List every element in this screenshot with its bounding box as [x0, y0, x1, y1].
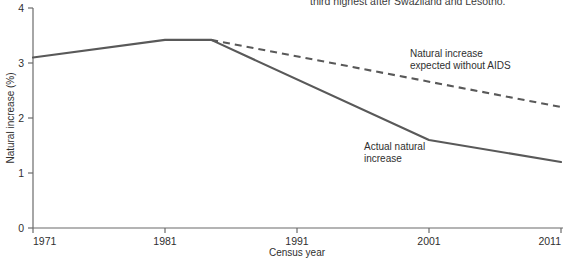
y-tick-label-4: 4	[18, 2, 24, 14]
annotation-expected-line2: expected without AIDS	[410, 60, 511, 71]
line-chart: 4 3 2 1 0 Natural increase (%) 1971 1981…	[0, 0, 573, 258]
annotation-actual-natural-increase: Actual natural increase	[364, 141, 425, 164]
x-axis-title: Census year	[269, 247, 326, 258]
y-tick-label-2: 2	[18, 112, 24, 124]
x-tick-label-2001: 2001	[417, 235, 441, 247]
y-axis-title: Natural increase (%)	[5, 72, 16, 163]
x-tick-label-1971: 1971	[33, 235, 57, 247]
x-tick-label-1981: 1981	[153, 235, 177, 247]
x-axis: 1971 1981 1991 2001 2011 Census year	[33, 228, 563, 258]
y-tick-label-3: 3	[18, 57, 24, 69]
x-tick-label-1991: 1991	[285, 235, 309, 247]
annotation-expected-without-aids: Natural increase expected without AIDS	[410, 48, 511, 71]
x-tick-label-2011: 2011	[538, 235, 561, 247]
annotation-expected-line1: Natural increase	[410, 48, 483, 59]
annotation-actual-line1: Actual natural	[364, 141, 425, 152]
series-line-expected-without-aids	[211, 40, 561, 107]
y-tick-label-1: 1	[18, 167, 24, 179]
y-axis: 4 3 2 1 0 Natural increase (%)	[5, 2, 33, 234]
y-tick-label-0: 0	[18, 222, 24, 234]
chart-figure: third highest after Swaziland and Lesoth…	[0, 0, 573, 258]
annotation-actual-line2: increase	[364, 153, 402, 164]
